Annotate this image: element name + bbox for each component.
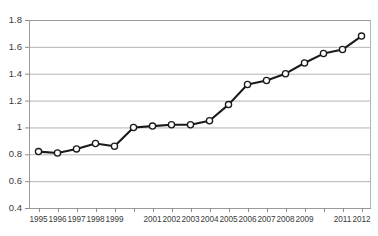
data-point [168,122,174,128]
data-point [339,46,345,52]
data-point [244,81,250,87]
data-point [263,77,269,83]
data-point [35,149,41,155]
data-point [130,124,136,130]
data-point [225,102,231,108]
ytick-label: 1 [17,122,22,132]
ytick-label: 1.2 [9,96,22,106]
ytick-label: 1.8 [9,15,22,25]
line-chart: 0.40.60.811.21.41.61.8199519961997199819… [0,0,378,236]
data-point [320,50,326,56]
plot-area [29,20,371,208]
chart-canvas [0,0,378,236]
ytick-label: 0.6 [9,176,22,186]
xtick-label: 1999 [102,216,128,224]
xtick-label: 2009 [292,216,318,224]
data-point [92,140,98,146]
data-point [206,118,212,124]
data-point [73,146,79,152]
data-point [111,143,117,149]
ytick-label: 0.8 [9,149,22,159]
data-point [282,71,288,77]
data-point [149,123,155,129]
data-point [54,150,60,156]
data-point [187,122,193,128]
ytick-label: 0.4 [9,203,22,213]
data-point [301,60,307,66]
data-point [358,33,364,39]
xtick-label: 2012 [349,216,375,224]
ytick-label: 1.6 [9,42,22,52]
ytick-label: 1.4 [9,69,22,79]
